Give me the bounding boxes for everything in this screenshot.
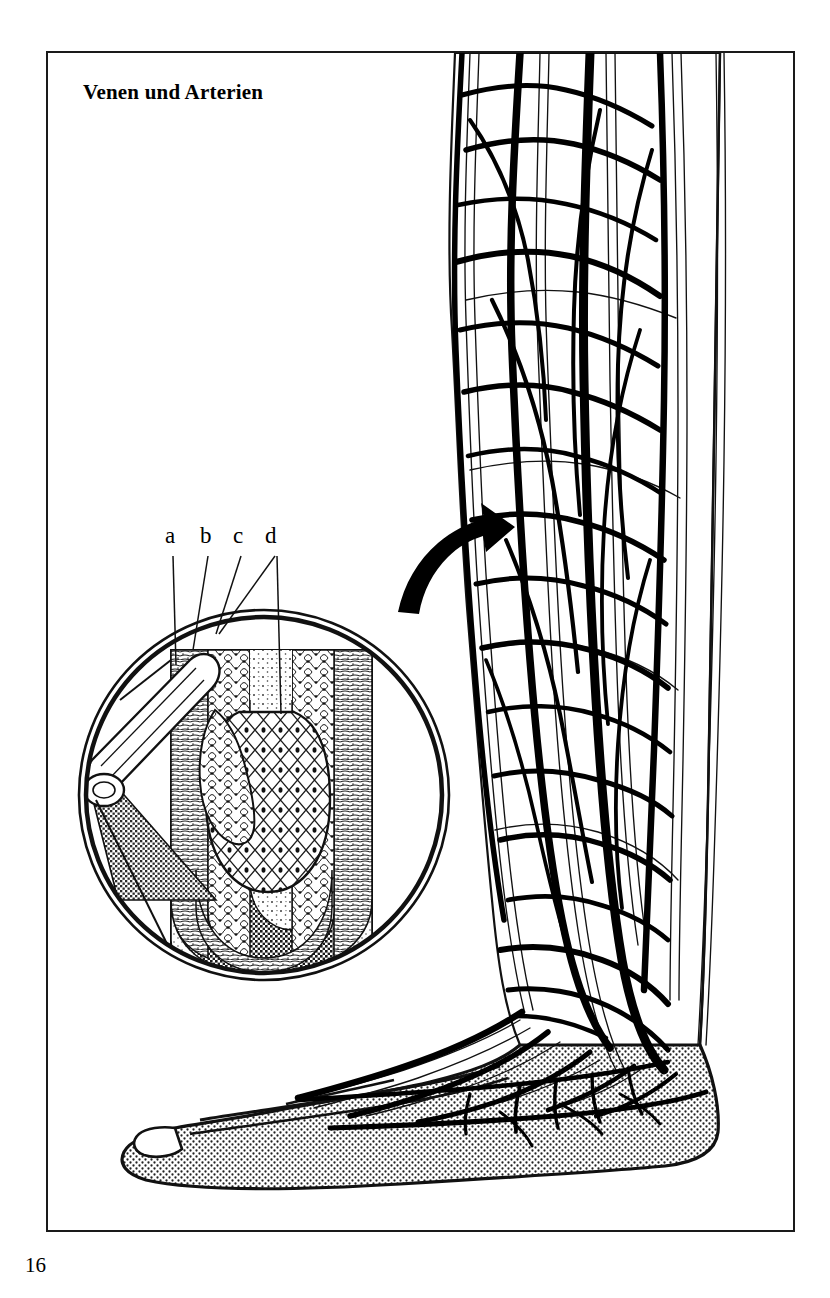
callout-label-c: c [233,524,243,547]
figure-title: Venen und Arterien [83,80,263,105]
figure-page: Venen und Arterien a b c d 16 [0,0,830,1298]
page-number: 16 [25,1255,46,1276]
callout-label-d: d [265,524,277,547]
callout-label-a: a [165,524,175,547]
callout-label-b: b [200,524,212,547]
inset-pointer-arrow [0,0,830,1298]
